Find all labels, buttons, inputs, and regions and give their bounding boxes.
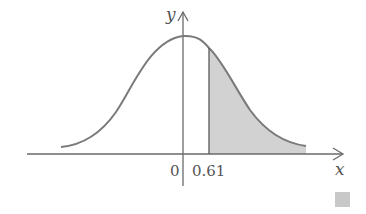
shade-start-tick-label: 0.61: [192, 162, 225, 180]
origin-tick-label: 0: [170, 162, 180, 180]
y-axis-label: y: [165, 4, 176, 24]
shaded-tail-region: [209, 48, 306, 154]
x-axis-label: x: [335, 159, 345, 179]
corner-square-marker: [335, 192, 350, 207]
normal-curve-diagram: y x 0 0.61: [0, 0, 366, 214]
